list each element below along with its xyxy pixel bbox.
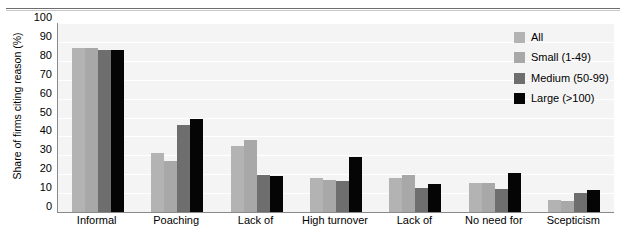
bar: [587, 190, 600, 212]
bar-group: [137, 23, 216, 212]
bar-group: [217, 23, 296, 212]
y-tick-label: 70: [16, 68, 52, 79]
title-rule-top: [6, 8, 620, 9]
bar: [561, 201, 574, 212]
x-tick-label: Informal: [57, 214, 136, 230]
x-axis-tick-labels: InformalPoachingLack ofHigh turnoverLack…: [57, 214, 613, 234]
legend-label: Small (1-49): [531, 52, 591, 63]
title-rule-bottom: [6, 10, 620, 11]
chart-figure: Share of firms citing reason (%) 0102030…: [0, 0, 626, 234]
legend-label: All: [531, 32, 543, 43]
bar-group: [376, 23, 455, 212]
bar: [310, 178, 323, 212]
bar: [349, 157, 362, 212]
x-tick-label: Scepticism: [534, 214, 613, 230]
bar: [495, 189, 508, 212]
legend-swatch-icon: [514, 73, 525, 84]
bar: [164, 161, 177, 212]
legend-item: Small (1-49): [514, 49, 620, 67]
bar-group: [296, 23, 375, 212]
bar: [231, 146, 244, 212]
bar: [508, 173, 521, 212]
bar: [389, 178, 402, 212]
y-tick-label: 50: [16, 106, 52, 117]
bar: [177, 125, 190, 212]
x-tick-label: No need for: [454, 214, 533, 230]
bar: [548, 200, 561, 212]
legend-item: Large (>100): [514, 90, 620, 108]
bar-set: [231, 23, 283, 212]
bar-set: [469, 23, 521, 212]
bar-set: [72, 23, 124, 212]
bar: [482, 183, 495, 212]
bar: [323, 180, 336, 212]
x-axis-line: [57, 212, 614, 213]
bar: [72, 48, 85, 212]
bar: [574, 193, 587, 212]
bar: [402, 175, 415, 212]
legend-item: Medium (50-99): [514, 69, 620, 87]
bar: [85, 48, 98, 212]
bar-set: [389, 23, 441, 212]
legend-swatch-icon: [514, 93, 525, 104]
bar: [415, 188, 428, 212]
legend-label: Medium (50-99): [531, 73, 609, 84]
y-tick-label: 60: [16, 87, 52, 98]
bar: [111, 50, 124, 212]
bar: [244, 140, 257, 212]
bar-set: [151, 23, 203, 212]
bar: [428, 184, 441, 212]
legend-item: All: [514, 28, 620, 46]
bar-group: [58, 23, 137, 212]
bar: [270, 176, 283, 212]
bar: [257, 175, 270, 212]
y-tick-label: 40: [16, 125, 52, 136]
y-tick-label: 10: [16, 182, 52, 193]
y-tick-label: 0: [16, 201, 52, 212]
bar: [151, 153, 164, 212]
x-tick-label: Poaching: [136, 214, 215, 230]
chart-legend: AllSmall (1-49)Medium (50-99)Large (>100…: [514, 28, 620, 110]
bar: [190, 119, 203, 212]
y-tick-label: 90: [16, 30, 52, 41]
legend-label: Large (>100): [531, 93, 594, 104]
x-tick-label: Lack of: [216, 214, 295, 230]
y-tick-label: 20: [16, 163, 52, 174]
y-tick-label: 100: [16, 12, 52, 23]
bar-set: [310, 23, 362, 212]
y-axis-tick-labels: 0102030405060708090100: [16, 17, 52, 213]
bar: [336, 181, 349, 212]
legend-swatch-icon: [514, 32, 525, 43]
x-tick-label: High turnover: [295, 214, 374, 230]
y-tick-label: 30: [16, 144, 52, 155]
y-tick-label: 80: [16, 49, 52, 60]
bar: [98, 50, 111, 212]
legend-swatch-icon: [514, 52, 525, 63]
bar: [469, 183, 482, 212]
x-tick-label: Lack of: [375, 214, 454, 230]
